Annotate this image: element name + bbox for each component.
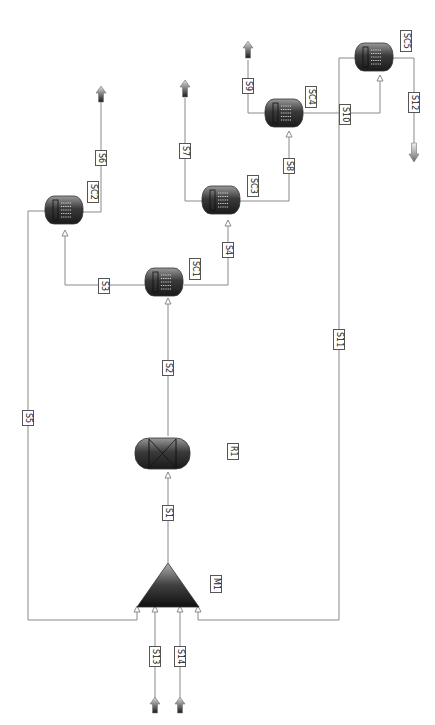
inlet-marker-icon xyxy=(62,230,68,236)
inlet-marker-icon xyxy=(286,131,292,137)
unit-label-r1: R1 xyxy=(227,443,239,460)
product-arrow-s12-icon xyxy=(409,143,419,162)
stream-label-s9: S9 xyxy=(242,78,254,94)
unit-label-sc1: SC1 xyxy=(189,258,201,280)
unit-label-sc5: SC5 xyxy=(400,30,412,52)
unit-label-sc2: SC2 xyxy=(87,181,99,203)
inlet-marker-icon xyxy=(225,220,231,226)
flowsheet-canvas xyxy=(0,0,435,725)
stream-label-s1: S1 xyxy=(162,505,174,521)
inlet-marker-icon xyxy=(165,298,171,304)
inlet-marker-icon xyxy=(165,472,171,478)
stream-label-s14: S14 xyxy=(174,646,186,667)
product-arrow-s7-icon xyxy=(180,80,190,97)
stream-label-s10: S10 xyxy=(339,104,351,125)
product-arrow-s6-icon xyxy=(96,86,106,102)
stream-label-s8: S8 xyxy=(283,158,295,174)
separator-sc3-icon xyxy=(202,186,240,214)
separator-sc1-icon xyxy=(145,268,183,296)
stream-label-s5: S5 xyxy=(22,410,34,426)
separator-sc4-icon xyxy=(265,99,303,127)
unit-label-sc4: SC4 xyxy=(305,86,317,108)
stream-label-s6: S6 xyxy=(95,150,107,166)
feed-arrow-s13-icon xyxy=(150,697,160,713)
stream-s5-line xyxy=(28,211,137,620)
feed-arrow-s14-icon xyxy=(175,697,185,713)
mixer-m1-icon xyxy=(137,563,199,607)
stream-label-s12: S12 xyxy=(408,92,420,113)
reactor-r1-icon xyxy=(135,438,190,469)
separator-sc2-icon xyxy=(45,196,83,224)
stream-label-s13: S13 xyxy=(149,646,161,667)
stream-label-s3: S3 xyxy=(98,278,110,294)
stream-label-s11: S11 xyxy=(333,329,345,350)
stream-label-s7: S7 xyxy=(179,143,191,159)
unit-label-sc3: SC3 xyxy=(247,175,259,197)
product-arrow-s9-icon xyxy=(243,41,253,58)
separator-sc5-icon xyxy=(355,43,393,71)
unit-label-m1: M1 xyxy=(210,575,222,593)
inlet-marker-icon xyxy=(377,75,383,81)
stream-label-s4: S4 xyxy=(222,242,234,258)
stream-label-s2: S2 xyxy=(162,360,174,376)
